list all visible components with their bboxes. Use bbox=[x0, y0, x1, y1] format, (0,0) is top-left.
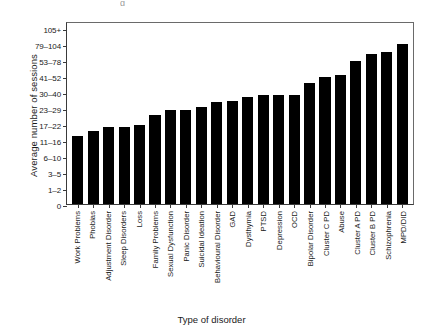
x-tick-mark bbox=[124, 204, 125, 208]
bar bbox=[289, 95, 300, 204]
x-tick-label: Sleep Disorders bbox=[119, 211, 128, 266]
bar-slot bbox=[116, 23, 131, 204]
y-tick-label: 6–10 bbox=[44, 154, 61, 163]
x-label-slot: GAD bbox=[224, 211, 240, 303]
bar bbox=[304, 83, 315, 204]
x-tick-mark bbox=[310, 204, 311, 208]
bar-slot bbox=[302, 23, 317, 204]
y-tick-label: 1–2 bbox=[48, 186, 61, 195]
x-label-slot: Suicidal Ideation bbox=[193, 211, 209, 303]
x-label-slot: Family Problems bbox=[147, 211, 163, 303]
bar bbox=[211, 102, 222, 204]
x-tick-label: Schizophrenia bbox=[383, 211, 392, 260]
x-label-slot: Panic Disorder bbox=[178, 211, 194, 303]
x-label-slot: OCD bbox=[287, 211, 303, 303]
x-tick-mark bbox=[201, 204, 202, 208]
x-tick-label: Panic Disorder bbox=[181, 211, 190, 262]
x-tick-label: Loss bbox=[134, 211, 143, 227]
x-label-slot: Bipolar Disorder bbox=[302, 211, 318, 303]
y-tick-label: 30–40 bbox=[39, 90, 61, 99]
bar-slot bbox=[317, 23, 332, 204]
x-tick-label: GAD bbox=[228, 211, 237, 228]
bar-slot bbox=[379, 23, 394, 204]
x-tick-mark bbox=[155, 204, 156, 208]
x-tick-mark bbox=[217, 204, 218, 208]
bar-slot bbox=[194, 23, 209, 204]
x-tick-mark bbox=[263, 204, 264, 208]
x-label-slot: PTSD bbox=[256, 211, 272, 303]
x-tick-mark bbox=[356, 204, 357, 208]
x-label-slot: Abuse bbox=[333, 211, 349, 303]
x-tick-mark bbox=[402, 204, 403, 208]
bar-slot bbox=[333, 23, 348, 204]
x-label-slot: Sleep Disorders bbox=[116, 211, 132, 303]
bar bbox=[196, 107, 207, 204]
y-tick-label: 79–104 bbox=[35, 42, 61, 51]
x-tick-label: Bipolar Disorder bbox=[305, 211, 314, 266]
bar-slot bbox=[225, 23, 240, 204]
bar bbox=[149, 115, 160, 204]
bar bbox=[227, 101, 238, 204]
y-tick-label: 105+ bbox=[43, 26, 61, 35]
bar-slot bbox=[286, 23, 301, 204]
x-label-slot: Cluster B PD bbox=[364, 211, 380, 303]
y-tick-label: 0 bbox=[57, 202, 61, 211]
x-tick-mark bbox=[340, 204, 341, 208]
x-label-slot: Loss bbox=[131, 211, 147, 303]
x-tick-label: Behavioural Disorder bbox=[212, 211, 221, 283]
bar bbox=[165, 110, 176, 204]
x-tick-mark bbox=[170, 204, 171, 208]
bar bbox=[319, 77, 330, 204]
bar-slot bbox=[240, 23, 255, 204]
x-label-slot: Work Problems bbox=[69, 211, 85, 303]
x-tick-label: OCD bbox=[290, 211, 299, 228]
bar-slot bbox=[147, 23, 162, 204]
x-tick-label: Adjustment Disorder bbox=[103, 211, 112, 281]
x-label-slot: Phobias bbox=[85, 211, 101, 303]
x-label-slot: Schizophrenia bbox=[380, 211, 396, 303]
bar bbox=[258, 95, 269, 204]
y-tick-label: 17–22 bbox=[39, 122, 61, 131]
y-tick-label: 41–52 bbox=[39, 74, 61, 83]
y-tick-label: 23–29 bbox=[39, 106, 61, 115]
bar-slot bbox=[364, 23, 379, 204]
bar bbox=[103, 127, 114, 204]
x-tick-label: PTSD bbox=[259, 211, 268, 231]
x-tick-label: Dysthymia bbox=[243, 211, 252, 247]
bar-slot bbox=[271, 23, 286, 204]
x-tick-label: Family Problems bbox=[150, 211, 159, 268]
bar bbox=[366, 54, 377, 204]
x-tick-label: Cluster C PD bbox=[321, 211, 330, 256]
x-label-slot: Cluster A PD bbox=[349, 211, 365, 303]
x-tick-label: MPD/DID bbox=[399, 211, 408, 243]
y-tick-label: 53–78 bbox=[39, 58, 61, 67]
x-tick-mark bbox=[279, 204, 280, 208]
x-tick-mark bbox=[248, 204, 249, 208]
bar bbox=[381, 52, 392, 204]
x-axis-title: Type of disorder bbox=[0, 314, 423, 325]
bar-slot bbox=[85, 23, 100, 204]
bar-slot bbox=[255, 23, 270, 204]
bar bbox=[180, 110, 191, 204]
x-tick-mark bbox=[294, 204, 295, 208]
x-label-slot: Adjustment Disorder bbox=[100, 211, 116, 303]
x-tick-mark bbox=[371, 204, 372, 208]
x-axis-tick-labels: Work ProblemsPhobiasAdjustment DisorderS… bbox=[66, 211, 414, 303]
bar bbox=[72, 136, 83, 204]
bar-slot bbox=[178, 23, 193, 204]
x-tick-label: Phobias bbox=[88, 211, 97, 239]
bar-slot bbox=[163, 23, 178, 204]
x-tick-mark bbox=[232, 204, 233, 208]
x-tick-mark bbox=[387, 204, 388, 208]
bar-slot bbox=[395, 23, 410, 204]
y-tick-label: 11–16 bbox=[40, 138, 61, 147]
x-tick-label: Depression bbox=[274, 211, 283, 250]
plot-area: 01–23–56–1011–1617–2223–2930–4041–5253–7… bbox=[66, 22, 414, 205]
x-label-slot: Dysthymia bbox=[240, 211, 256, 303]
bar-slot bbox=[209, 23, 224, 204]
bar bbox=[350, 61, 361, 204]
x-tick-mark bbox=[140, 204, 141, 208]
x-tick-mark bbox=[109, 204, 110, 208]
x-tick-label: Suicidal Ideation bbox=[197, 211, 206, 268]
bar bbox=[335, 75, 346, 204]
